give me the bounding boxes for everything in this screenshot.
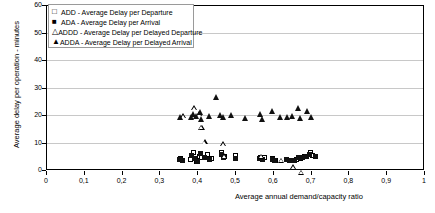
data-point-adda (297, 115, 303, 121)
y-tick (42, 88, 46, 89)
x-tick (235, 171, 236, 175)
y-tick (42, 143, 46, 144)
y-tick-label: 30 (20, 84, 42, 92)
data-point-adda (213, 94, 219, 100)
data-point-adda (228, 112, 234, 118)
legend-item-addd: △ADDD - Average Delay per Delayed Depart… (52, 27, 189, 37)
data-point-adda (197, 109, 203, 115)
data-point-adda (308, 114, 314, 120)
y-tick-label: 20 (20, 111, 42, 119)
x-tick (311, 171, 312, 175)
data-point-addd (199, 125, 205, 130)
y-tick-label: 50 (20, 29, 42, 37)
data-point-adda (277, 114, 283, 120)
x-tick-label: 0,1 (69, 177, 99, 185)
x-tick-label: 0,9 (371, 177, 401, 185)
y-axis-title: Average delay per operation - minutes (12, 20, 21, 147)
data-point-ada (272, 158, 277, 163)
y-tick (42, 60, 46, 61)
x-tick (46, 171, 47, 175)
x-tick (273, 171, 274, 175)
data-point-adda (289, 113, 295, 119)
gridline (47, 60, 423, 61)
x-tick (84, 171, 85, 175)
data-point-addd (278, 158, 284, 163)
data-point-adda (295, 105, 301, 111)
x-tick (197, 171, 198, 175)
legend-label: ADA - Average Delay per Arrival (61, 19, 160, 26)
legend-label: ADDA - Average Delay per Delayed Arrival (60, 39, 192, 46)
y-tick-label: 40 (20, 56, 42, 64)
x-tick (348, 171, 349, 175)
data-point-adda (198, 116, 204, 122)
x-tick-label: 0,3 (144, 177, 174, 185)
y-tick-label: 10 (20, 139, 42, 147)
gridline (47, 88, 423, 89)
data-point-ada (307, 152, 312, 157)
data-point-adda (206, 113, 212, 119)
data-point-ada (207, 157, 212, 162)
x-tick-label: 0 (31, 177, 61, 185)
legend-label: ADD - Average Delay per Departure (61, 9, 173, 16)
data-point-addd (298, 170, 304, 175)
y-tick (42, 115, 46, 116)
x-tick-label: 1 (409, 177, 435, 185)
data-point-adda (177, 114, 183, 120)
data-point-addd (221, 153, 227, 158)
gridline (47, 115, 423, 116)
data-point-addd (202, 139, 208, 144)
y-tick-label: 0 (20, 166, 42, 174)
scatter-chart: 0102030405060 00,10,20,30,40,50,60,70,80… (0, 0, 435, 213)
x-tick-label: 0,6 (258, 177, 288, 185)
data-point-adda (220, 114, 226, 120)
data-point-ada (195, 159, 200, 164)
y-tick (42, 33, 46, 34)
data-point-ada (180, 158, 185, 163)
data-point-addd (220, 141, 226, 146)
x-tick (122, 171, 123, 175)
legend-item-add: □ADD - Average Delay per Departure (52, 7, 189, 17)
filled-square-marker: ■ (52, 18, 61, 26)
data-point-ada (233, 156, 238, 161)
x-tick (159, 171, 160, 175)
y-tick-label: 60 (20, 1, 42, 9)
legend-item-adda: ▲ADDA - Average Delay per Delayed Arriva… (52, 37, 189, 47)
x-tick-label: 0,7 (296, 177, 326, 185)
filled-triangle-marker: ▲ (52, 38, 60, 46)
x-tick-label: 0,5 (220, 177, 250, 185)
data-point-adda (269, 108, 275, 114)
x-axis-title: Average annual demand/capacity ratio (235, 192, 363, 201)
chart-legend: □ADD - Average Delay per Departure■ADA -… (48, 4, 194, 48)
x-tick (424, 171, 425, 175)
y-tick (42, 5, 46, 6)
data-point-addd (258, 154, 264, 159)
legend-label: ADDD - Average Delay per Delayed Departu… (58, 29, 202, 36)
open-square-marker: □ (52, 8, 61, 16)
x-tick-label: 0,8 (333, 177, 363, 185)
data-point-adda (242, 115, 248, 121)
data-point-addd (290, 164, 296, 169)
x-tick-label: 0,4 (182, 177, 212, 185)
x-tick (386, 171, 387, 175)
x-tick-label: 0,2 (107, 177, 137, 185)
legend-item-ada: ■ADA - Average Delay per Arrival (52, 17, 189, 27)
gridline (47, 143, 423, 144)
data-point-ada (313, 154, 318, 159)
data-point-adda (259, 116, 265, 122)
